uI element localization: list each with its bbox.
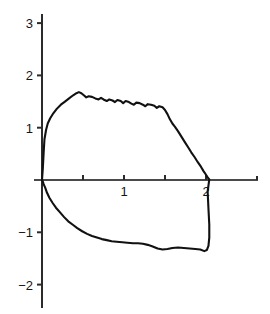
y-tick-label-3: 3 [26,16,33,31]
x-tick-label-1: 1 [120,184,127,199]
y-tick-label--1: −1 [18,225,33,240]
plot-background [0,0,270,314]
y-tick-label--2: −2 [18,278,33,293]
y-tick-label-2: 2 [26,68,33,83]
y-tick-label-1: 1 [26,121,33,136]
chart-figure: 12 −2−1123 [0,0,270,314]
chart-canvas: 12 −2−1123 [0,0,270,314]
